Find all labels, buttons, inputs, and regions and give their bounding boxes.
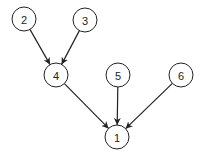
node-2: 2 — [12, 7, 36, 31]
node-1: 1 — [105, 125, 129, 149]
edge-2-to-4 — [30, 29, 50, 64]
edge-5-to-1 — [117, 87, 118, 125]
node-label: 3 — [82, 15, 88, 27]
node-3: 3 — [73, 8, 97, 32]
node-label: 2 — [21, 14, 27, 26]
node-5: 5 — [106, 63, 130, 87]
node-label: 4 — [53, 70, 59, 82]
node-label: 5 — [115, 70, 121, 82]
edge-4-to-1 — [64, 84, 108, 129]
node-label: 1 — [114, 132, 120, 144]
node-4: 4 — [44, 63, 68, 87]
node-label: 6 — [178, 70, 184, 82]
tree-diagram: 123456 — [0, 0, 205, 158]
node-6: 6 — [169, 63, 193, 87]
edge-6-to-1 — [126, 83, 173, 128]
nodes: 123456 — [12, 7, 193, 149]
edge-3-to-4 — [62, 31, 80, 65]
